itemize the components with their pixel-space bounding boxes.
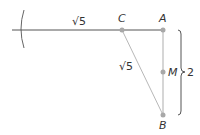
label-M: M [168, 66, 178, 79]
compass-arc [21, 10, 24, 48]
geometry-diagram: C A M B √5 √5 2 [0, 0, 200, 135]
point-M [161, 70, 166, 75]
label-top-sqrt5: √5 [72, 15, 86, 28]
label-brace-2: 2 [187, 66, 194, 79]
point-C [120, 28, 125, 33]
label-C: C [118, 12, 126, 25]
label-A: A [158, 12, 167, 25]
point-B [161, 113, 166, 118]
label-hyp-sqrt5: √5 [119, 60, 133, 73]
point-A [161, 28, 166, 33]
brace [178, 30, 185, 115]
label-B: B [159, 119, 167, 132]
